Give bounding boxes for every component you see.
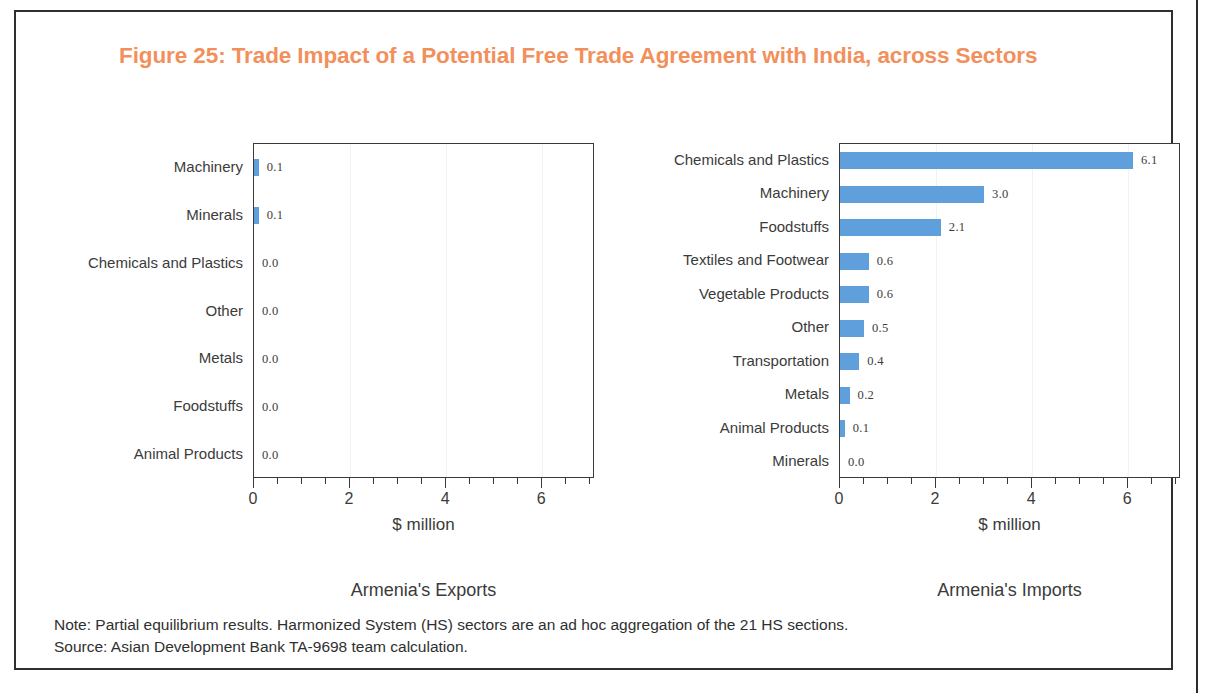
category-label: Textiles and Footwear bbox=[645, 252, 829, 267]
axis-tick-label: 4 bbox=[441, 490, 450, 508]
axis-tick-major bbox=[541, 478, 542, 488]
axis-tick-label: 6 bbox=[1123, 490, 1132, 508]
category-label: Chemicals and Plastics bbox=[645, 152, 829, 167]
axis-tick-minor bbox=[325, 478, 326, 484]
category-labels-imports: Chemicals and PlasticsMachineryFoodstuff… bbox=[646, 143, 1180, 478]
figure-frame: Figure 25: Trade Impact of a Potential F… bbox=[14, 10, 1173, 670]
category-label: Animal Products bbox=[55, 446, 243, 461]
axis-tick-minor bbox=[373, 478, 374, 484]
axis-tick-minor bbox=[589, 478, 590, 484]
category-label: Minerals bbox=[645, 453, 829, 468]
axis-tick-minor bbox=[469, 478, 470, 484]
axis-tick-minor bbox=[1079, 478, 1080, 484]
axis-tick-minor bbox=[911, 478, 912, 484]
category-label: Metals bbox=[645, 386, 829, 401]
axis-tick-minor bbox=[959, 478, 960, 484]
category-label: Foodstuffs bbox=[55, 398, 243, 413]
axis-tick-minor bbox=[983, 478, 984, 484]
axis-tick-minor bbox=[301, 478, 302, 484]
x-axis-title-imports: $ million bbox=[839, 515, 1180, 535]
category-label: Other bbox=[55, 303, 243, 318]
axis-tick-major bbox=[1031, 478, 1032, 488]
figure-source-line: Source: Asian Development Bank TA-9698 t… bbox=[54, 636, 1144, 658]
axis-tick-label: 0 bbox=[249, 490, 258, 508]
category-label: Transportation bbox=[645, 353, 829, 368]
category-label: Animal Products bbox=[645, 420, 829, 435]
figure-title: Figure 25: Trade Impact of a Potential F… bbox=[119, 43, 1159, 69]
category-label: Metals bbox=[55, 350, 243, 365]
figure-notes: Note: Partial equilibrium results. Harmo… bbox=[54, 614, 1144, 659]
axis-tick-label: 2 bbox=[931, 490, 940, 508]
category-labels-exports: MachineryMineralsChemicals and PlasticsO… bbox=[56, 143, 594, 478]
category-label: Machinery bbox=[55, 159, 243, 174]
figure-page: Figure 25: Trade Impact of a Potential F… bbox=[0, 0, 1206, 693]
axis-tick-minor bbox=[565, 478, 566, 484]
category-label: Foodstuffs bbox=[645, 219, 829, 234]
axis-tick-major bbox=[253, 478, 254, 488]
axis-tick-minor bbox=[397, 478, 398, 484]
category-label: Chemicals and Plastics bbox=[55, 255, 243, 270]
category-label: Minerals bbox=[55, 207, 243, 222]
axis-tick-minor bbox=[863, 478, 864, 484]
axis-tick-minor bbox=[1175, 478, 1176, 484]
axis-tick-minor bbox=[493, 478, 494, 484]
axis-tick-major bbox=[445, 478, 446, 488]
axis-tick-minor bbox=[887, 478, 888, 484]
axis-tick-major bbox=[349, 478, 350, 488]
axis-tick-major bbox=[1127, 478, 1128, 488]
axis-tick-minor bbox=[1055, 478, 1056, 484]
page-edge bbox=[1196, 0, 1206, 693]
category-label: Other bbox=[645, 319, 829, 334]
x-axis-exports: 0246 bbox=[253, 478, 594, 508]
axis-tick-minor bbox=[1151, 478, 1152, 484]
category-label: Vegetable Products bbox=[645, 286, 829, 301]
axis-tick-label: 2 bbox=[345, 490, 354, 508]
axis-tick-minor bbox=[1103, 478, 1104, 484]
figure-note-line: Note: Partial equilibrium results. Harmo… bbox=[54, 614, 1144, 636]
panel-caption-exports: Armenia's Exports bbox=[253, 580, 594, 601]
axis-tick-minor bbox=[277, 478, 278, 484]
x-axis-title-exports: $ million bbox=[253, 515, 594, 535]
axis-tick-minor bbox=[517, 478, 518, 484]
axis-tick-minor bbox=[1007, 478, 1008, 484]
axis-tick-major bbox=[839, 478, 840, 488]
axis-tick-major bbox=[935, 478, 936, 488]
axis-tick-label: 4 bbox=[1027, 490, 1036, 508]
axis-tick-label: 6 bbox=[537, 490, 546, 508]
x-axis-imports: 0246 bbox=[839, 478, 1180, 508]
axis-tick-minor bbox=[421, 478, 422, 484]
category-label: Machinery bbox=[645, 185, 829, 200]
axis-tick-label: 0 bbox=[835, 490, 844, 508]
panel-caption-imports: Armenia's Imports bbox=[839, 580, 1180, 601]
